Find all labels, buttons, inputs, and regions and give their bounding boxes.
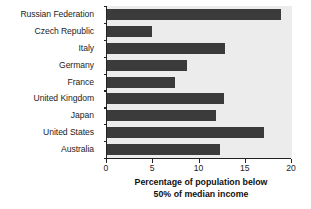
y-axis-tick — [104, 90, 108, 91]
bar-row — [107, 90, 292, 107]
bar-row — [107, 23, 292, 40]
x-axis-tick — [291, 159, 292, 163]
y-axis-tick — [104, 23, 108, 24]
bar-czech-republic — [107, 26, 152, 37]
x-axis-tick — [106, 159, 107, 163]
y-axis-tick — [104, 107, 108, 108]
bar-row — [107, 6, 292, 23]
y-axis-tick — [104, 74, 108, 75]
y-axis-tick — [104, 40, 108, 41]
x-axis-title-line-1: Percentage of population below — [135, 177, 268, 187]
bar-australia — [107, 144, 220, 155]
bar-united-kingdom — [107, 93, 224, 104]
bar-row — [107, 40, 292, 57]
bar-japan — [107, 110, 216, 121]
x-axis-tick-label: 10 — [194, 163, 204, 173]
y-axis-label-united-kingdom: United Kingdom — [0, 90, 98, 107]
bar-italy — [107, 43, 225, 54]
y-axis-label-czech-republic: Czech Republic — [0, 23, 98, 40]
y-axis-tick — [104, 124, 108, 125]
y-axis-tick — [104, 6, 108, 7]
y-axis-label-australia: Australia — [0, 141, 98, 158]
y-axis-category-labels: Russian Federation Czech Republic Italy … — [0, 6, 98, 158]
bar-france — [107, 77, 175, 88]
x-axis-tick-label: 15 — [240, 163, 250, 173]
x-axis-tick — [152, 159, 153, 163]
y-axis-label-germany: Germany — [0, 57, 98, 74]
x-axis-tick — [245, 159, 246, 163]
y-axis-tick — [104, 141, 108, 142]
x-axis-tick — [199, 159, 200, 163]
bar-russian-federation — [107, 9, 281, 20]
bar-series — [107, 6, 292, 158]
y-axis-tick — [104, 57, 108, 58]
bar-row — [107, 57, 292, 74]
y-axis-label-russian-federation: Russian Federation — [0, 6, 98, 23]
plot-area — [106, 6, 292, 158]
bar-row — [107, 124, 292, 141]
x-axis-tick-label: 20 — [286, 163, 296, 173]
x-axis-tick-label: 0 — [104, 163, 109, 173]
bar-germany — [107, 60, 187, 71]
bar-united-states — [107, 127, 264, 138]
bar-row — [107, 141, 292, 158]
y-axis-label-japan: Japan — [0, 107, 98, 124]
x-axis-title: Percentage of population below 50% of me… — [106, 177, 296, 200]
y-axis-label-france: France — [0, 74, 98, 91]
y-axis-label-united-states: United States — [0, 124, 98, 141]
bar-row — [107, 107, 292, 124]
y-axis-label-italy: Italy — [0, 40, 98, 57]
x-axis-title-line-2: 50% of median income — [106, 189, 296, 201]
x-axis-tick-label: 5 — [150, 163, 155, 173]
bar-chart: Russian Federation Czech Republic Italy … — [0, 0, 311, 209]
bar-row — [107, 74, 292, 91]
